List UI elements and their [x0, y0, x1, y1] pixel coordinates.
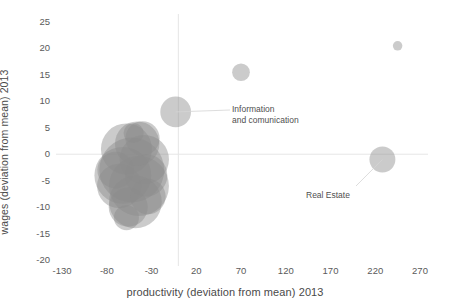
- bubble-point: [393, 41, 402, 50]
- y-tick-label: -10: [18, 202, 50, 212]
- leader-line: [356, 160, 382, 186]
- x-tick-label: -80: [100, 266, 114, 276]
- bubble-point: [124, 123, 144, 143]
- x-tick-label: 20: [191, 266, 202, 276]
- bubble-point: [130, 179, 165, 214]
- bubble-chart: 2520151050-5-10-15-20 -130-80-3020701201…: [0, 0, 450, 308]
- x-tick-label: 270: [412, 266, 428, 276]
- y-tick-label: -20: [18, 255, 50, 265]
- annotation-line-1: Real Estate: [306, 190, 350, 201]
- y-tick-label: -15: [18, 229, 50, 239]
- y-tick-label: 15: [18, 70, 50, 80]
- annotation-real-estate: Real Estate: [306, 190, 350, 201]
- y-tick-label: 0: [18, 149, 50, 159]
- x-tick-label: 70: [236, 266, 247, 276]
- bubble-point: [232, 63, 250, 81]
- y-tick-label: 25: [18, 17, 50, 27]
- x-tick-label: -30: [145, 266, 159, 276]
- bubble-point: [114, 205, 139, 230]
- annotation-line-2: and comunication: [232, 115, 299, 126]
- y-tick-label: 10: [18, 97, 50, 107]
- x-tick-label: -130: [52, 266, 71, 276]
- x-tick-label: 120: [278, 266, 294, 276]
- y-tick-label: 5: [18, 123, 50, 133]
- y-axis-title: wages (deviation from mean) 2013: [0, 70, 10, 235]
- plot-area: [0, 0, 450, 308]
- x-tick-label: 220: [367, 266, 383, 276]
- y-tick-label: 20: [18, 44, 50, 54]
- y-tick-label: -5: [18, 176, 50, 186]
- annotation-line-1: Information: [232, 104, 299, 115]
- bubble-series: [94, 41, 402, 230]
- x-tick-label: 170: [323, 266, 339, 276]
- annotation-information-and-comunication: Information and comunication: [232, 104, 299, 127]
- x-axis-title: productivity (deviation from mean) 2013: [0, 286, 450, 298]
- bubble-point: [97, 152, 134, 189]
